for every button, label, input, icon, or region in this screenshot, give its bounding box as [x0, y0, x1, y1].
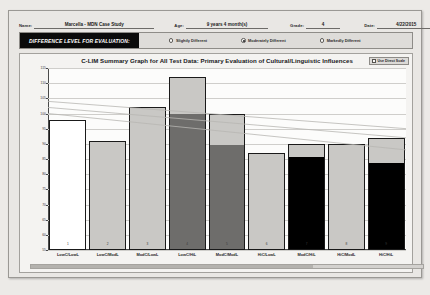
- cell-number: 9: [366, 242, 406, 246]
- cell-number: 7: [287, 242, 327, 246]
- bar-upper-segment: [90, 142, 125, 151]
- y-tick-mark: [46, 159, 48, 160]
- y-tick-label: 115: [41, 66, 46, 70]
- bar-lower-segment: [170, 114, 205, 249]
- difference-level-title: DIFFERENCE LEVEL FOR EVALUATION:: [20, 33, 139, 48]
- bar-modc-lowl[interactable]: [129, 107, 166, 250]
- age-value[interactable]: 9 years 4 month(s): [186, 21, 268, 29]
- y-tick-label: 55: [42, 248, 46, 252]
- clim-form-panel: Name: Marcella - MDN Case Study Age: 9 y…: [8, 10, 422, 278]
- radio-label: Moderately Different: [248, 38, 286, 43]
- horizontal-scrollbar[interactable]: [30, 264, 424, 269]
- y-tick-mark: [46, 250, 48, 251]
- cell-number: 6: [247, 242, 287, 246]
- bar-upper-segment: [210, 115, 245, 145]
- x-axis-labels: 1LowC/LowL2LowC/ModL3ModC/LowL4LowC/HiL5…: [48, 252, 406, 264]
- radio-dot-selected-icon[interactable]: [241, 38, 246, 43]
- field-grade[interactable]: Grade: 4: [290, 21, 340, 29]
- bar-upper-segment: [369, 139, 404, 163]
- chart-frame: C-LIM Summary Graph for All Test Data: P…: [19, 53, 413, 273]
- bar-upper-segment: [249, 154, 284, 163]
- bar-lower-segment: [130, 124, 165, 249]
- bar-lowc-hil[interactable]: [169, 77, 206, 250]
- y-tick-label: 85: [42, 157, 46, 161]
- checkbox-icon[interactable]: [372, 59, 376, 63]
- cell-number: 3: [128, 242, 168, 246]
- y-tick-label: 100: [40, 112, 46, 116]
- bar-lower-segment: [210, 145, 245, 249]
- bar-hic-modl[interactable]: [328, 144, 365, 250]
- x-axis-label: ModC/HiL: [287, 252, 327, 257]
- x-axis-label: HiC/ModL: [326, 252, 366, 257]
- x-axis-label: LowC/LowL: [48, 252, 88, 257]
- cell-number: 2: [88, 242, 128, 246]
- radio-label: Markedly Different: [327, 38, 361, 43]
- bar-lower-segment: [249, 163, 284, 249]
- y-tick-mark: [46, 68, 48, 69]
- y-tick-label: 95: [42, 127, 46, 131]
- bar-hic-lowl[interactable]: [248, 153, 285, 250]
- demographics-row: Name: Marcella - MDN Case Study Age: 9 y…: [9, 15, 423, 29]
- date-value[interactable]: 4/22/2015: [377, 21, 430, 29]
- grade-label: Grade:: [290, 23, 306, 29]
- bar-upper-segment: [289, 145, 324, 157]
- y-tick-label: 70: [42, 203, 46, 207]
- use-direct-scale-toggle[interactable]: Use Direct Scale: [369, 57, 409, 65]
- y-tick-label: 105: [40, 96, 46, 100]
- y-tick-label: 110: [41, 81, 46, 85]
- radio-dot-icon[interactable]: [169, 38, 174, 43]
- age-label: Age:: [174, 23, 186, 29]
- y-tick-mark: [46, 220, 48, 221]
- chart-title: C-LIM Summary Graph for All Test Data: P…: [20, 57, 414, 64]
- bar-modc-hil[interactable]: [288, 144, 325, 250]
- radio-moderately-different[interactable]: Moderately Different: [241, 38, 286, 43]
- y-tick-mark: [46, 174, 48, 175]
- bar-lowc-modl[interactable]: [89, 141, 126, 250]
- radio-slightly-different[interactable]: Slightly Different: [169, 38, 207, 43]
- name-label: Name:: [19, 23, 34, 29]
- screenshot-root: Name: Marcella - MDN Case Study Age: 9 y…: [0, 0, 430, 295]
- cell-number: 5: [207, 242, 247, 246]
- cell-number: 4: [167, 242, 207, 246]
- field-age[interactable]: Age: 9 years 4 month(s): [174, 21, 268, 29]
- x-axis-label: LowC/HiL: [167, 252, 207, 257]
- bar-upper-segment: [170, 78, 205, 114]
- y-tick-label: 60: [42, 233, 46, 237]
- bar-lower-segment: [289, 157, 324, 249]
- radio-markedly-different[interactable]: Markedly Different: [320, 38, 361, 43]
- cell-number: 8: [326, 242, 366, 246]
- field-date[interactable]: Date: 4/22/2015: [364, 21, 430, 29]
- bar-lowc-lowl[interactable]: [49, 120, 86, 250]
- bar-lower-segment: [50, 121, 85, 249]
- gridline: [48, 68, 406, 69]
- bar-lower-segment: [329, 169, 364, 249]
- name-value[interactable]: Marcella - MDN Case Study: [34, 21, 154, 29]
- x-axis-label: LowC/ModL: [88, 252, 128, 257]
- x-axis-label: ModC/ModL: [207, 252, 247, 257]
- scrollbar-thumb[interactable]: [31, 265, 313, 268]
- y-tick-label: 90: [42, 142, 46, 146]
- y-tick-mark: [46, 144, 48, 145]
- y-tick-mark: [46, 129, 48, 130]
- field-name[interactable]: Name: Marcella - MDN Case Study: [19, 21, 154, 29]
- x-axis-label: ModC/LowL: [128, 252, 168, 257]
- bar-hic-hil[interactable]: [368, 138, 405, 250]
- y-tick-label: 65: [42, 218, 46, 222]
- bar-lower-segment: [90, 151, 125, 249]
- radio-dot-icon[interactable]: [320, 38, 325, 43]
- bar-modc-modl[interactable]: [209, 114, 246, 251]
- y-tick-mark: [46, 205, 48, 206]
- y-tick-mark: [46, 189, 48, 190]
- date-label: Date:: [364, 23, 377, 29]
- y-tick-mark: [46, 235, 48, 236]
- y-tick-label: 80: [42, 172, 46, 176]
- grade-value[interactable]: 4: [306, 21, 340, 29]
- bar-upper-segment: [130, 108, 165, 123]
- cell-number: 1: [48, 242, 88, 246]
- plot-area: 115110105100959085807570656055: [48, 68, 406, 250]
- y-tick-label: 75: [42, 187, 46, 191]
- gridline: [48, 250, 406, 251]
- x-axis-label: HiC/LowL: [247, 252, 287, 257]
- difference-level-options: Slightly Different Moderately Different …: [139, 38, 412, 43]
- bar-upper-segment: [329, 145, 364, 169]
